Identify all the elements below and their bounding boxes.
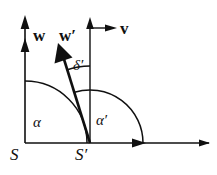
label-point-s: S (10, 146, 19, 163)
label-angle-alpha-prime: α′ (96, 113, 107, 128)
label-angle-delta-prime: δ′ (73, 58, 83, 73)
label-vector-w: w (33, 27, 45, 44)
label-vector-w-prime: w′ (59, 27, 76, 44)
label-point-s-prime: S′ (75, 146, 87, 163)
vector-angle-diagram: w w′ v δ′ α α′ S S′ (0, 0, 217, 175)
label-angle-alpha: α (33, 115, 41, 130)
label-vector-v: v (120, 20, 129, 37)
